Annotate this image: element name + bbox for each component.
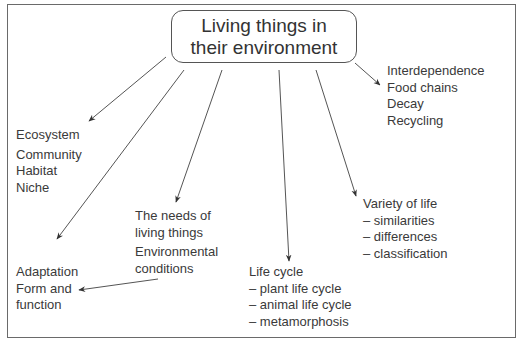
node-line: Community [16,147,82,164]
arrow-to-needs [176,70,222,202]
node-line: Adaptation [16,264,78,281]
node-line: Niche [16,180,82,197]
node-line: living things [135,225,218,242]
node-line: function [16,297,78,314]
node-variety-of-life: Variety of life – similarities – differe… [363,196,448,262]
node-line: – differences [363,229,448,246]
node-line: Form and [16,281,78,298]
node-line: Life cycle [249,264,352,281]
node-line: – similarities [363,213,448,230]
node-interdependence: Interdependence Food chains Decay Recycl… [387,63,485,129]
node-line: conditions [135,261,218,278]
node-line: Environmental [135,244,218,261]
arrow-to-life-cycle [279,70,289,261]
node-line: The needs of [135,208,218,225]
node-line: Habitat [16,163,82,180]
node-life-cycle: Life cycle – plant life cycle – animal l… [249,264,352,330]
arrow-to-variety [316,70,356,196]
node-line: – classification [363,246,448,263]
node-adaptation: Adaptation Form and function [16,264,78,314]
node-line: Food chains [387,80,485,97]
node-line: Decay [387,96,485,113]
node-line: Ecosystem [16,127,82,144]
node-needs-of-living-things: The needs of living things Environmental… [135,208,218,277]
node-ecosystem: Ecosystem Community Habitat Niche [16,127,82,196]
node-line: – animal life cycle [249,297,352,314]
node-line: Interdependence [387,63,485,80]
node-line: Variety of life [363,196,448,213]
node-line: – plant life cycle [249,281,352,298]
node-line: – metamorphosis [249,314,352,331]
arrow-to-interdependence [355,63,380,85]
node-line: Recycling [387,113,485,130]
arrow-to-ecosystem [89,57,166,121]
arrow-conditions-to-adaptation [79,279,158,290]
